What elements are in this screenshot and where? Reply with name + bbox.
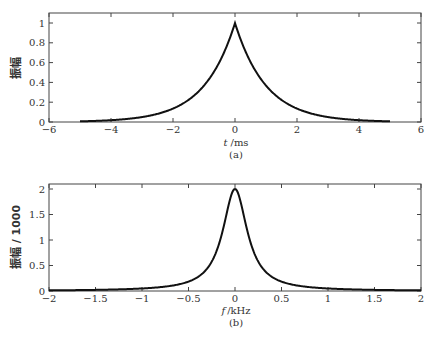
y-ticks-b: 00.511.52 — [29, 184, 421, 297]
x-tick-label: 2 — [294, 124, 300, 135]
x-tick-label: −4 — [104, 124, 119, 135]
x-tick-label: 0 — [232, 124, 238, 135]
x-axis-label-a: t/ms — [223, 137, 248, 148]
y-tick-label: 0 — [39, 117, 45, 128]
panel-b: −2−1.5−1−0.500.511.52 00.511.52 振幅 / 100… — [9, 184, 424, 329]
y-ticks-a: 00.20.40.60.81 — [29, 18, 421, 128]
y-axis-label-b: 振幅 / 1000 — [9, 205, 23, 270]
panel-a: −6−4−20246 00.20.40.60.81 振幅 t/ms (a) — [9, 13, 424, 160]
y-tick-label: 0.4 — [29, 77, 45, 88]
axes-frame-b — [49, 184, 421, 291]
y-tick-label: 0.8 — [29, 37, 45, 48]
y-tick-label: 1 — [39, 18, 45, 29]
x-tick-label: 1 — [325, 293, 331, 304]
y-tick-label: 2 — [39, 184, 45, 195]
x-ticks-b: −2−1.5−1−0.500.511.52 — [42, 184, 425, 304]
y-tick-label: 0 — [39, 286, 45, 297]
y-tick-label: 0.5 — [29, 260, 45, 271]
x-tick-label: −1.5 — [83, 293, 107, 304]
y-tick-label: 1 — [39, 235, 45, 246]
x-tick-label: −0.5 — [176, 293, 200, 304]
y-tick-label: 0.6 — [29, 57, 45, 68]
x-axis-label-b: f/kHz — [220, 305, 250, 316]
y-tick-label: 0.2 — [29, 97, 45, 108]
x-tick-label: 1.5 — [367, 293, 383, 304]
x-tick-label: 2 — [418, 293, 424, 304]
panel-caption-a: (a) — [229, 149, 243, 160]
x-tick-label: −2 — [166, 124, 181, 135]
axes-frame-a — [49, 13, 421, 122]
x-tick-label: 4 — [356, 124, 362, 135]
x-tick-label: 6 — [418, 124, 424, 135]
x-tick-label: −1 — [135, 293, 150, 304]
y-axis-label-a: 振幅 — [9, 57, 23, 79]
y-tick-label: 1.5 — [29, 209, 45, 220]
curve-a — [80, 23, 390, 121]
curve-b — [49, 189, 421, 290]
x-tick-label: 0 — [232, 293, 238, 304]
panel-caption-b: (b) — [229, 317, 243, 328]
figure: −6−4−20246 00.20.40.60.81 振幅 t/ms (a) −2… — [0, 0, 432, 344]
x-tick-label: 0.5 — [274, 293, 290, 304]
